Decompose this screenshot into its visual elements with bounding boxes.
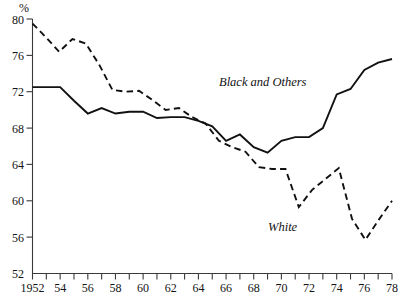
y-tick-label-76: 76 bbox=[12, 49, 24, 63]
series-label-white: White bbox=[268, 220, 298, 234]
y-tick-label-68: 68 bbox=[12, 122, 24, 136]
y-tick-label-52: 52 bbox=[12, 267, 24, 281]
y-tick-label-80: 80 bbox=[12, 13, 24, 27]
x-tick-label-1972: 72 bbox=[303, 281, 315, 295]
x-tick-label-1954: 54 bbox=[54, 281, 66, 295]
x-tick-label-1970: 70 bbox=[275, 281, 287, 295]
y-tick-label-72: 72 bbox=[12, 85, 24, 99]
x-tick-label-1952: 1952 bbox=[21, 281, 45, 295]
series-line-black-and-others bbox=[33, 59, 393, 153]
chart-container: % 80 76 72 68 64 60 56 52 19525456586062… bbox=[0, 0, 406, 303]
x-tick-label-1960: 60 bbox=[137, 281, 149, 295]
x-tick-label-1974: 74 bbox=[331, 281, 343, 295]
x-tick-label-1978: 78 bbox=[386, 281, 398, 295]
x-tick-label-1966: 66 bbox=[220, 281, 232, 295]
x-tick-label-1962: 62 bbox=[165, 281, 177, 295]
y-tick-label-56: 56 bbox=[12, 231, 24, 245]
x-tick-label-1958: 58 bbox=[109, 281, 121, 295]
x-tick-label-1968: 68 bbox=[248, 281, 260, 295]
axis-lines bbox=[33, 19, 393, 274]
y-tick-label-60: 60 bbox=[12, 194, 24, 208]
x-axis-tick-labels: 195254565860626466687072747678 bbox=[21, 281, 399, 295]
x-axis-ticks bbox=[33, 274, 393, 280]
line-chart: % 80 76 72 68 64 60 56 52 19525456586062… bbox=[0, 0, 406, 303]
x-tick-label-1976: 76 bbox=[358, 281, 370, 295]
x-tick-label-1964: 64 bbox=[192, 281, 204, 295]
series-label-black-and-others: Black and Others bbox=[219, 75, 307, 89]
x-tick-label-1956: 56 bbox=[82, 281, 94, 295]
series-line-white bbox=[33, 24, 393, 240]
y-axis-ticks: 80 76 72 68 64 60 56 52 bbox=[12, 13, 33, 282]
y-tick-label-64: 64 bbox=[12, 158, 24, 172]
